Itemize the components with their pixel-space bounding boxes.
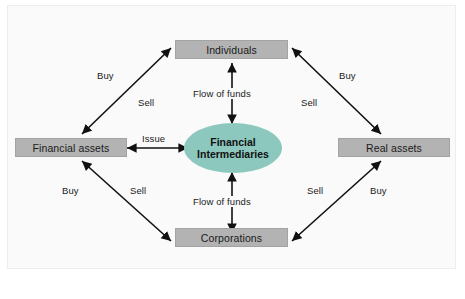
edge-individuals-financialassets bbox=[82, 48, 171, 134]
node-individuals-label: Individuals bbox=[206, 44, 257, 56]
node-individuals[interactable]: Individuals bbox=[175, 40, 288, 59]
node-real-assets[interactable]: Real assets bbox=[338, 138, 450, 157]
edge-financialassets-corporations bbox=[82, 161, 171, 241]
node-financial-assets-label: Financial assets bbox=[33, 142, 110, 154]
node-intermediaries-label-line1: Financial bbox=[210, 136, 256, 148]
label-issue: Issue bbox=[140, 133, 167, 144]
node-corporations-label: Corporations bbox=[201, 232, 262, 244]
label-bottom-left-buy: Buy bbox=[62, 185, 79, 196]
label-top-right-buy: Buy bbox=[339, 70, 356, 81]
diagram-root: Individuals Financial assets Real assets… bbox=[0, 0, 465, 299]
label-bottom-right-buy: Buy bbox=[370, 185, 387, 196]
label-flow-of-funds-bottom: Flow of funds bbox=[191, 196, 253, 207]
edge-realassets-corporations bbox=[292, 161, 381, 241]
node-real-assets-label: Real assets bbox=[366, 142, 422, 154]
node-financial-assets[interactable]: Financial assets bbox=[15, 138, 127, 157]
node-intermediaries-label-line2: Intermediaries bbox=[197, 148, 269, 160]
label-top-right-sell: Sell bbox=[301, 97, 317, 108]
edge-individuals-realassets bbox=[292, 48, 381, 134]
node-financial-intermediaries[interactable]: Financial Intermediaries bbox=[184, 123, 282, 173]
label-flow-of-funds-top: Flow of funds bbox=[191, 88, 253, 99]
label-bottom-left-sell: Sell bbox=[130, 185, 146, 196]
node-corporations[interactable]: Corporations bbox=[175, 228, 288, 247]
label-top-left-sell: Sell bbox=[138, 97, 154, 108]
label-top-left-buy: Buy bbox=[97, 70, 114, 81]
label-bottom-right-sell: Sell bbox=[307, 185, 323, 196]
